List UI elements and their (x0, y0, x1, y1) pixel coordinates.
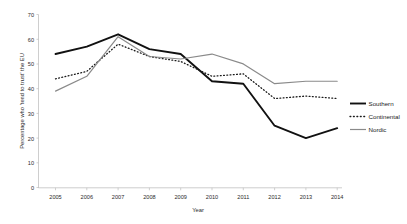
y-tick-label: 70 (28, 12, 34, 18)
y-tick-label: 0 (31, 185, 34, 191)
chart-legend: Southern Continental Nordic (350, 100, 400, 133)
legend-item-nordic[interactable]: Nordic (350, 126, 386, 133)
series-line-southern (56, 34, 338, 138)
x-tick-label: 2008 (143, 194, 155, 200)
y-tick-label: 30 (28, 111, 34, 117)
x-axis (39, 188, 343, 191)
y-tick-label: 40 (28, 86, 34, 92)
series-line-nordic (56, 37, 338, 91)
legend-label-nordic: Nordic (369, 126, 387, 133)
x-tick-label: 2007 (112, 194, 124, 200)
series-line-continental (56, 44, 338, 98)
y-tick-label: 20 (28, 136, 34, 142)
x-tick-label: 2009 (174, 194, 186, 200)
y-axis-title: Percentage who 'tend to trust' the EU (19, 53, 25, 149)
x-tick-label: 2005 (49, 194, 61, 200)
x-tick-label: 2012 (268, 194, 280, 200)
legend-item-southern[interactable]: Southern (350, 100, 394, 107)
y-tick-label: 60 (28, 37, 34, 43)
x-axis-tick-labels: 2005 2006 2007 2008 2009 2010 2011 2012 … (49, 194, 343, 200)
y-axis (37, 15, 39, 189)
y-tick-label: 10 (28, 160, 34, 166)
x-tick-label: 2010 (206, 194, 218, 200)
legend-label-continental: Continental (369, 113, 400, 120)
x-axis-title: Year (192, 207, 204, 213)
chart-canvas: 70 60 50 40 30 20 10 0 (0, 0, 407, 224)
series-group (56, 34, 338, 138)
legend-item-continental[interactable]: Continental (350, 113, 400, 120)
legend-label-southern: Southern (369, 100, 395, 107)
x-tick-label: 2013 (300, 194, 312, 200)
x-tick-label: 2014 (331, 194, 343, 200)
y-axis-tick-labels: 70 60 50 40 30 20 10 0 (28, 12, 34, 191)
x-tick-label: 2011 (237, 194, 249, 200)
y-tick-label: 50 (28, 61, 34, 67)
x-tick-label: 2006 (81, 194, 93, 200)
line-chart-figure: 70 60 50 40 30 20 10 0 (0, 0, 407, 224)
